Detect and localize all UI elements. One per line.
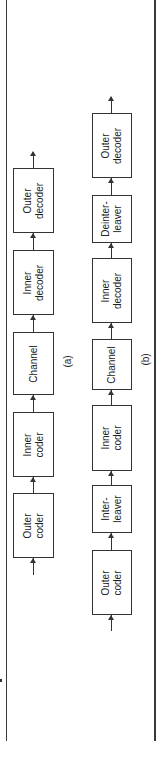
b-inner-coder-label: Inner coder	[100, 425, 124, 450]
a-outer-decoder-block: Outer decoder	[13, 168, 54, 233]
a-arrowhead-4-icon	[30, 233, 36, 238]
a-arrowhead-2-icon	[30, 395, 36, 400]
a-inner-coder-label: Inner coder	[22, 432, 46, 457]
a-caption: (a)	[62, 355, 73, 367]
b-output-arrowhead-icon	[108, 96, 114, 101]
b-outer-coder-label: Outer coder	[100, 570, 124, 595]
a-channel-label: Channel	[28, 345, 40, 382]
b-channel-block: Channel	[92, 339, 132, 390]
scan-artifact-dot	[0, 679, 2, 682]
b-deinterleaver-label: Deinter- leaver	[100, 201, 124, 237]
a-inner-decoder-label: Inner decoder	[22, 264, 46, 300]
b-arrowhead-1-icon	[108, 533, 114, 538]
b-interleaver-block: Inter- leaver	[92, 485, 132, 533]
b-outer-decoder-label: Outer decoder	[100, 127, 124, 163]
frame-left-line	[6, 0, 7, 741]
b-arrowhead-4-icon	[108, 323, 114, 328]
b-caption: (b)	[140, 353, 151, 365]
a-arrowhead-1-icon	[30, 477, 36, 482]
b-channel-label: Channel	[106, 346, 118, 383]
a-arrowhead-3-icon	[30, 315, 36, 320]
a-output-arrowhead-icon	[30, 151, 36, 156]
b-inner-coder-block: Inner coder	[92, 405, 132, 471]
a-inner-decoder-block: Inner decoder	[13, 250, 54, 315]
a-channel-block: Channel	[13, 332, 54, 395]
a-outer-coder-block: Outer coder	[13, 493, 54, 558]
b-arrowhead-2-icon	[108, 471, 114, 476]
b-input-arrowhead-icon	[108, 615, 114, 620]
b-interleaver-label: Inter- leaver	[100, 495, 124, 522]
a-outer-decoder-label: Outer decoder	[22, 182, 46, 218]
a-inner-coder-block: Inner coder	[13, 412, 54, 477]
b-outer-decoder-block: Outer decoder	[92, 113, 132, 178]
b-inner-decoder-block: Inner decoder	[92, 258, 132, 323]
b-inner-decoder-label: Inner decoder	[100, 272, 124, 308]
a-outer-coder-label: Outer coder	[22, 513, 46, 538]
frame-right-line	[154, 0, 156, 741]
b-arrowhead-5-icon	[108, 243, 114, 248]
b-arrowhead-6-icon	[108, 178, 114, 183]
b-outer-coder-block: Outer coder	[92, 550, 132, 615]
b-arrowhead-3-icon	[108, 390, 114, 395]
b-deinterleaver-block: Deinter- leaver	[92, 195, 132, 243]
a-input-arrowhead-icon	[30, 558, 36, 563]
